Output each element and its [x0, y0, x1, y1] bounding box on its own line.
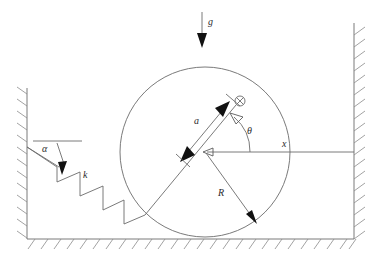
- theta-angle-label: θ: [247, 125, 252, 136]
- right-wall: [354, 23, 365, 239]
- x-axis-label: x: [281, 138, 287, 149]
- left-wall-hatching: [17, 87, 27, 238]
- diagram-canvas: g x a θ: [0, 0, 382, 262]
- radius-arrowhead: [246, 210, 257, 224]
- theta-arrowhead: [230, 113, 243, 124]
- spring-constant-label: k: [83, 169, 88, 180]
- gravity-arrow: [197, 12, 207, 48]
- gravity-label: g: [208, 16, 213, 27]
- offset-axis-line: [145, 105, 236, 215]
- gravity-arrowhead: [197, 33, 207, 48]
- right-wall-hatching: [354, 27, 365, 239]
- offset-distance-label: a: [194, 115, 199, 126]
- alpha-reference: [27, 141, 82, 175]
- radius-arrow: [206, 153, 257, 224]
- ground-hatching: [28, 239, 356, 249]
- radius-label: R: [217, 187, 224, 198]
- alpha-angle-label: α: [42, 143, 48, 154]
- left-wall: [17, 87, 27, 239]
- circle-times-icon: [235, 96, 245, 106]
- physics-diagram-figure: g x a θ: [0, 0, 382, 262]
- ground-surface: [27, 239, 356, 249]
- alpha-arrowhead: [58, 161, 67, 175]
- x-axis-line: [203, 148, 354, 156]
